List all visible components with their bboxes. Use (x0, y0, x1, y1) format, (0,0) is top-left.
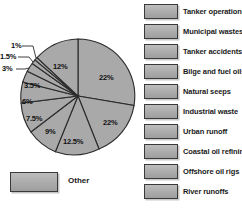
leader-line-3 (16, 68, 29, 69)
pie-label-9: 9% (45, 127, 55, 136)
legend-swatch-river-runoffs (144, 184, 178, 199)
legend-item-coastal-oil-refining[interactable]: Coastal oil refining (143, 144, 242, 162)
legend-item-industrial-waste[interactable]: Industrial waste (143, 104, 242, 122)
legend-swatch-urban-runoff (144, 124, 178, 139)
legend-swatch-coastal-oil-refining (144, 144, 178, 159)
legend-swatch-natural-seeps (144, 84, 178, 99)
legend-label-offshore-oil-rigs: Offshore oil rigs (183, 167, 239, 176)
legend-item-municipal-wastes[interactable]: Municipal wastes (143, 24, 242, 42)
legend-item-natural-seeps[interactable]: Natural seeps (143, 84, 242, 102)
legend-label-river-runoffs: River runoffs (183, 187, 228, 196)
legend-swatch-bilge-and-fuel-oils (144, 64, 178, 79)
leader-line-1-5 (18, 57, 33, 62)
legend-label-tanker-operations: Tanker operations (183, 7, 242, 16)
pie-label-22-b: 22% (103, 118, 117, 127)
legend-item-offshore-oil-rigs[interactable]: Offshore oil rigs (143, 164, 242, 182)
legend-swatch-industrial-waste (144, 104, 178, 119)
pie-chart: 22% 22% 12.5% 9% 7.5% 6% 3.5% 12% 3% 1.5… (0, 18, 142, 173)
pie-label-7-5: 7.5% (26, 114, 42, 123)
legend-swatch-tanker-accidents (144, 44, 178, 59)
legend-item-bilge-and-fuel-oils[interactable]: Bilge and fuel oils (143, 64, 242, 82)
legend: Tanker operations Municipal wastes Tanke… (143, 4, 242, 206)
other-label: Other (68, 176, 89, 185)
legend-swatch-tanker-operations (144, 4, 178, 19)
legend-item-river-runoffs[interactable]: River runoffs (143, 184, 242, 202)
pie-label-3: 3% (2, 64, 12, 73)
pie-label-12: 12% (53, 62, 67, 71)
legend-item-tanker-accidents[interactable]: Tanker accidents (143, 44, 242, 62)
pie-label-1-5: 1.5% (0, 52, 16, 61)
pie-label-22-a: 22% (99, 73, 113, 82)
pie-label-12-5: 12.5% (63, 137, 83, 146)
legend-label-coastal-oil-refining: Coastal oil refining (183, 147, 242, 156)
other-swatch (10, 172, 58, 192)
legend-label-municipal-wastes: Municipal wastes (183, 27, 242, 36)
legend-label-bilge-and-fuel-oils: Bilge and fuel oils (183, 67, 242, 76)
legend-item-tanker-operations[interactable]: Tanker operations (143, 4, 242, 22)
other-legend-key: Other (10, 172, 130, 198)
legend-label-natural-seeps: Natural seeps (183, 87, 231, 96)
legend-swatch-municipal-wastes (144, 24, 178, 39)
legend-label-urban-runoff: Urban runoff (183, 127, 227, 136)
pie-label-6: 6% (22, 97, 32, 106)
legend-label-tanker-accidents: Tanker accidents (183, 47, 242, 56)
legend-item-urban-runoff[interactable]: Urban runoff (143, 124, 242, 142)
legend-swatch-offshore-oil-rigs (144, 164, 178, 179)
legend-label-industrial-waste: Industrial waste (183, 107, 238, 116)
leader-line-1 (22, 46, 36, 58)
pie-label-1: 1% (11, 41, 21, 50)
pie-label-3-5: 3.5% (24, 81, 40, 90)
